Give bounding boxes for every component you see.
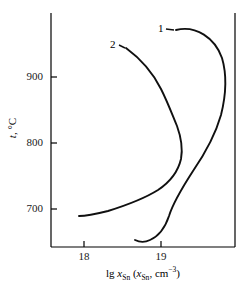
y-axis-title-unit: , °C <box>6 118 18 135</box>
x-tick-label-19: 19 <box>146 250 176 262</box>
x-axis-title-sub1: Sn <box>122 273 130 282</box>
curve-1-leader <box>166 29 174 30</box>
y-tick-label-900: 900 <box>13 70 43 82</box>
curve-2-leader <box>119 45 125 48</box>
x-axis-title: lg xSn (xSn, cm−3) <box>51 265 235 282</box>
chart-figure: 900 800 700 18 19 t, °C lg xSn (xSn, cm−… <box>0 0 250 290</box>
y-axis-title: t, °C <box>6 103 18 153</box>
x-axis-title-comma: , cm <box>149 267 168 279</box>
x-tick-label-18: 18 <box>69 250 99 262</box>
curve-label-1: 1 <box>158 22 164 34</box>
curve-2 <box>79 48 182 216</box>
y-tick-label-700: 700 <box>13 202 43 214</box>
y-axis-title-symbol: t <box>6 135 18 138</box>
x-axis-title-lg: lg <box>106 267 115 279</box>
x-axis-title-close: ) <box>176 267 180 279</box>
curve-label-2: 2 <box>110 38 116 50</box>
